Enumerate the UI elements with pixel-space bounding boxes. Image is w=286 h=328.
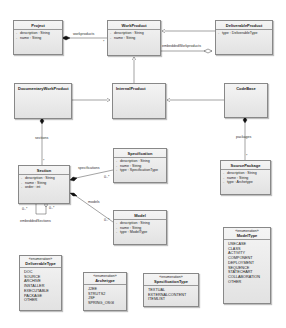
label-packages: packages	[236, 135, 251, 139]
label-embeddedworkproducts: embeddedWorkproducts	[162, 44, 201, 48]
attribute-text: description : String	[120, 221, 150, 225]
enum-literal: SPRING_OSGI	[88, 301, 122, 306]
attribute-text: name : String	[227, 176, 248, 180]
class-name: Specification	[114, 149, 166, 158]
enum-modeltype[interactable]: «enumeration» ModelType USECASE CLASS AC…	[223, 227, 271, 304]
attribute-text: type : SpecificationType	[120, 168, 158, 172]
label-embeddedsections: embeddedSections	[20, 219, 51, 223]
label-models: models	[88, 200, 100, 204]
class-name: DocumentaryWorkProduct	[15, 84, 71, 92]
attribute-text: name : String	[25, 181, 46, 185]
attribute-text: description : String	[25, 176, 55, 180]
enum-name: ModelType	[224, 233, 270, 240]
class-documentaryworkproduct[interactable]: DocumentaryWorkProduct	[14, 83, 72, 119]
attribute-text: name : String	[20, 36, 41, 40]
class-internalproduct[interactable]: InternalProduct	[112, 83, 166, 119]
class-workproduct[interactable]: WorkProduct -description : String -name …	[107, 20, 161, 56]
class-name: InternalProduct	[113, 84, 165, 92]
attribute-text: type : ModelType	[120, 230, 147, 234]
multiplicity-embeddedsections-right: 0..*	[49, 206, 54, 210]
class-name: Project	[14, 21, 62, 30]
enum-specificationtype[interactable]: «enumeration» SpecificationType TEXTUAL …	[143, 273, 199, 307]
class-section[interactable]: Section -description : String -name : St…	[18, 165, 70, 204]
class-codebase[interactable]: CodeBase	[224, 83, 268, 118]
attribute-text: description : String	[227, 171, 257, 175]
attribute: -name : String	[110, 36, 158, 41]
class-name: DeliverableProduct	[216, 21, 272, 30]
label-workproducts: workproducts	[73, 32, 94, 36]
attribute: -type : SpecificationType	[116, 168, 164, 173]
attribute: -name : String	[16, 36, 60, 41]
enum-archetype[interactable]: «enumeration» Archetype J2EE STRUTS2 JSF…	[83, 272, 127, 311]
attribute-text: type : DeliverableType	[222, 31, 258, 35]
class-project[interactable]: Project -description : String -name : St…	[13, 20, 63, 55]
multiplicity-embeddedsections-left: 0..*	[22, 207, 27, 211]
multiplicity-sections: *	[43, 159, 44, 163]
enum-name: SpecificationType	[144, 279, 198, 286]
class-specification[interactable]: Specification -description : String -nam…	[113, 148, 167, 183]
attribute-text: type : Archetype	[227, 180, 253, 184]
enum-deliverabletype[interactable]: «enumeration» DeliverableType DOC SOURCE…	[19, 255, 62, 311]
attribute-text: name : String	[114, 36, 135, 40]
class-model[interactable]: Model -description : String -name : Stri…	[113, 210, 167, 245]
enum-literal: OTHER	[24, 298, 57, 303]
multiplicity-workproducts: *	[103, 40, 104, 44]
composition-diamond	[62, 36, 70, 40]
class-name: SourcePackage	[221, 161, 270, 170]
attribute: -type : ModelType	[116, 230, 164, 235]
attribute: -order : int	[21, 185, 67, 190]
attribute: -type : Archetype	[223, 180, 268, 185]
class-name: CodeBase	[225, 84, 267, 92]
attribute-text: description : String	[20, 31, 50, 35]
label-specifications: specifications	[78, 166, 100, 170]
attribute-text: description : String	[120, 159, 150, 163]
multiplicity-packages: *	[246, 154, 247, 158]
label-sections: sections	[35, 136, 48, 140]
class-sourcepackage[interactable]: SourcePackage -description : String -nam…	[220, 160, 271, 195]
attribute-text: name : String	[120, 164, 141, 168]
attribute-text: order : int	[25, 185, 40, 189]
multiplicity-specifications: 0..*	[104, 175, 109, 179]
class-name: Model	[114, 211, 166, 220]
attribute-text: description : String	[114, 31, 144, 35]
attribute-text: name : String	[120, 226, 141, 230]
class-name: WorkProduct	[108, 21, 160, 30]
multiplicity-models: 0..*	[104, 218, 109, 222]
enum-literal: ITEMLIST	[148, 297, 194, 302]
enum-literal: OTHER	[228, 280, 266, 285]
enum-name: Archetype	[84, 278, 126, 285]
attribute: -type : DeliverableType	[218, 31, 270, 36]
enum-name: DeliverableType	[20, 261, 61, 268]
class-deliverableproduct[interactable]: DeliverableProduct -type : DeliverableTy…	[215, 20, 273, 55]
class-name: Section	[19, 166, 69, 175]
uml-class-diagram: Project -description : String -name : St…	[0, 0, 286, 328]
